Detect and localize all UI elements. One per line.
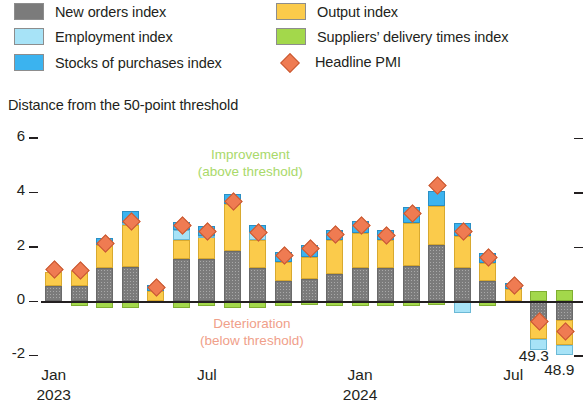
x-axis-tick-label: Jul — [473, 366, 553, 384]
y-axis-tick-mark — [29, 246, 38, 248]
y-axis-tick-label: 6 — [17, 127, 25, 144]
y-axis-tick-mark — [29, 355, 38, 357]
bar-segment-neworders — [454, 268, 471, 301]
bar-group[interactable] — [122, 124, 139, 364]
x-axis-month-label: Jan — [41, 366, 66, 383]
bar-segment-neworders — [377, 268, 394, 301]
x-axis-tick-label: Jan2024 — [320, 366, 400, 404]
legend-item-employment[interactable]: Employment index — [14, 28, 173, 45]
bar-segment-neworders — [224, 251, 241, 301]
bar-segment-neworders — [249, 268, 266, 301]
y-axis-tick-label: 0 — [17, 290, 25, 307]
x-axis-month-label: Jan — [348, 366, 373, 383]
y-axis-tick-label: 2 — [17, 236, 25, 253]
legend-item-label: Suppliers’ delivery times index — [317, 29, 508, 45]
y-axis-title: Distance from the 50-point threshold — [8, 97, 238, 113]
bar-segment-neworders — [275, 281, 292, 301]
bar-segment-neworders — [96, 268, 113, 301]
y-axis-tick-0: 0 — [0, 290, 38, 307]
annotation-improvement: Improvement (above threshold) — [175, 146, 325, 180]
bar-segment-neworders — [352, 268, 369, 301]
bar-group[interactable] — [505, 124, 522, 364]
bar-group[interactable] — [147, 124, 164, 364]
color-swatch-icon — [14, 54, 44, 71]
legend-item-label: Employment index — [55, 29, 173, 45]
bar-segment-neworders — [122, 267, 139, 301]
plot-area: -20246 Improvement (above threshold) Det… — [0, 124, 585, 364]
x-axis-tick-label: Jan2023 — [14, 366, 94, 404]
y-axis-tick-mark — [29, 301, 38, 303]
chart-legend: New orders indexEmployment indexStocks o… — [0, 0, 585, 84]
y-axis-tick-4: 4 — [0, 181, 38, 198]
annotation-deterioration-line2: (below threshold) — [172, 332, 332, 349]
bar-group[interactable] — [45, 124, 62, 364]
legend-item-pmi[interactable]: Headline PMI — [276, 54, 401, 70]
bar-segment-neworders — [326, 274, 343, 301]
bar-segment-neworders — [556, 301, 573, 320]
bar-group[interactable] — [96, 124, 113, 364]
y-axis-tick-mark — [29, 137, 38, 139]
bar-segment-suppliers — [530, 291, 547, 301]
bar-segment-output — [352, 233, 369, 268]
bar-segment-neworders — [428, 245, 445, 301]
legend-item-suppliers[interactable]: Suppliers’ delivery times index — [276, 28, 508, 45]
x-axis-tick-label: Jul — [167, 366, 247, 384]
bar-segment-output — [122, 225, 139, 267]
x-axis: Jan2023JulJan2024Jul — [0, 362, 585, 411]
bar-segment-output — [454, 236, 471, 269]
bar-group[interactable] — [428, 124, 445, 364]
x-axis-month-label: Jul — [197, 366, 217, 383]
x-axis-month-label: Jul — [503, 366, 523, 383]
y-axis-tick-label: 4 — [17, 181, 25, 198]
bar-group[interactable] — [377, 124, 394, 364]
bar-segment-neworders — [45, 286, 62, 301]
bar-segment-output — [326, 240, 343, 274]
y-axis-tick-mark — [29, 192, 38, 194]
bar-segment-neworders — [198, 259, 215, 301]
bar-segment-neworders — [71, 286, 88, 301]
y-axis-tick-neg2: -2 — [0, 344, 38, 361]
bar-group[interactable] — [556, 124, 573, 364]
x-axis-year-label: 2024 — [320, 386, 400, 404]
y-axis-tick-label: -2 — [12, 344, 25, 361]
bar-segment-neworders — [173, 259, 190, 301]
bar-segment-employment — [454, 301, 471, 313]
bar-segment-employment — [556, 345, 573, 356]
bar-group[interactable] — [479, 124, 496, 364]
annotation-improvement-line1: Improvement — [175, 146, 325, 163]
legend-item-label: Stocks of purchases index — [55, 55, 222, 71]
bar-segment-output — [224, 204, 241, 250]
color-swatch-icon — [276, 3, 306, 20]
y-axis-tick-2: 2 — [0, 236, 38, 253]
legend-item-output[interactable]: Output index — [276, 3, 398, 20]
legend-item-label: Output index — [317, 4, 398, 20]
bar-segment-output — [301, 257, 318, 279]
bar-segment-output — [249, 240, 266, 269]
bar-group[interactable] — [403, 124, 420, 364]
bar-segment-neworders — [403, 266, 420, 301]
color-swatch-icon — [14, 3, 44, 20]
legend-item-label: New orders index — [55, 4, 166, 20]
bar-segment-neworders — [301, 279, 318, 301]
bar-group[interactable] — [530, 124, 547, 364]
bar-group[interactable] — [71, 124, 88, 364]
legend-item-neworders[interactable]: New orders index — [14, 3, 166, 20]
x-axis-year-label: 2023 — [14, 386, 94, 404]
diamond-marker-icon — [276, 55, 304, 70]
legend-item-stocks[interactable]: Stocks of purchases index — [14, 54, 222, 71]
annotation-deterioration-line1: Deterioration — [172, 315, 332, 332]
bar-segment-output — [403, 223, 420, 265]
bar-segment-neworders — [479, 281, 496, 301]
bar-segment-output — [428, 206, 445, 245]
bar-group[interactable] — [454, 124, 471, 364]
legend-item-label: Headline PMI — [315, 54, 401, 70]
annotation-improvement-line2: (above threshold) — [175, 163, 325, 180]
y-axis-tick-6: 6 — [0, 127, 38, 144]
bar-segment-output — [173, 240, 190, 259]
zero-threshold-line — [41, 301, 577, 303]
bar-group[interactable] — [352, 124, 369, 364]
color-swatch-icon — [276, 28, 306, 45]
annotation-deterioration: Deterioration (below threshold) — [172, 315, 332, 349]
color-swatch-icon — [14, 28, 44, 45]
bar-segment-suppliers — [556, 290, 573, 301]
